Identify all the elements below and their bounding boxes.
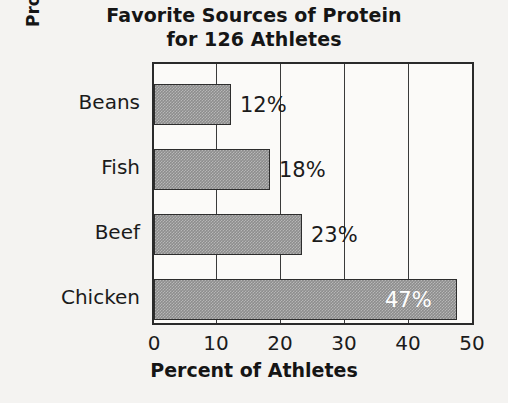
x-axis-ticks: 0 10 20 30 40 50 xyxy=(152,330,474,356)
x-tick-40: 40 xyxy=(395,330,420,356)
bar-value-beans: 12% xyxy=(240,94,287,115)
x-tick-50: 50 xyxy=(459,330,484,356)
category-axis-labels: Beans Fish Beef Chicken xyxy=(0,62,146,325)
category-label-fish: Fish xyxy=(101,147,140,188)
bar-value-chicken: 47% xyxy=(385,289,432,310)
category-label-beans: Beans xyxy=(79,82,140,123)
chart-title: Favorite Sources of Protein for 126 Athl… xyxy=(0,3,508,51)
bar-fish[interactable] xyxy=(154,149,270,190)
bar-beans[interactable] xyxy=(154,84,231,125)
chart-title-line-2: for 126 Athletes xyxy=(0,27,508,51)
x-tick-0: 0 xyxy=(148,330,161,356)
chart-title-line-1: Favorite Sources of Protein xyxy=(106,4,401,26)
bar-value-beef: 23% xyxy=(311,224,358,245)
x-tick-10: 10 xyxy=(203,330,228,356)
bar-value-fish: 18% xyxy=(279,159,326,180)
x-tick-30: 30 xyxy=(331,330,356,356)
category-label-beef: Beef xyxy=(95,212,140,253)
bars-layer: 12% 18% 23% 47% xyxy=(154,64,472,323)
category-label-chicken: Chicken xyxy=(61,277,140,318)
bar-beef[interactable] xyxy=(154,214,302,255)
x-tick-20: 20 xyxy=(267,330,292,356)
chart-figure: Favorite Sources of Protein for 126 Athl… xyxy=(0,0,508,403)
plot-area: 12% 18% 23% 47% xyxy=(152,62,474,325)
x-axis-title: Percent of Athletes xyxy=(0,358,508,382)
